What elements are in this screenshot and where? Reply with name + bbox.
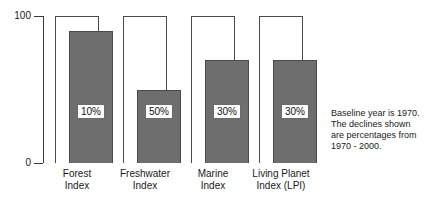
annotation-line-2: The declines shown — [331, 119, 434, 130]
y-axis-line — [43, 16, 44, 163]
bar-group-freshwater: 50% — [123, 16, 181, 163]
bar-group-living-planet: 30% — [259, 16, 317, 163]
current-bar: 50% — [137, 90, 181, 164]
bar-group-forest: 10% — [55, 16, 113, 163]
bar-group-marine: 30% — [191, 16, 249, 163]
y-axis-label-bottom: 0 — [0, 158, 31, 168]
category-label-living-planet: Living Planet Index (LPI) — [233, 168, 329, 192]
annotation-line-4: 1970 - 2000. — [331, 141, 434, 152]
data-label: 50% — [145, 104, 173, 119]
current-bar: 30% — [205, 60, 249, 163]
category-label-line2: Index (LPI) — [233, 180, 329, 192]
data-label: 30% — [281, 104, 309, 119]
category-label-line1: Forest — [63, 168, 91, 179]
category-label-line1: Marine — [198, 168, 229, 179]
y-axis-label-top: 100 — [0, 11, 31, 21]
plot-area: 10% 50% 30% 30% — [55, 16, 320, 163]
chart-annotation: Baseline year is 1970. The declines show… — [331, 108, 434, 152]
bar-chart: 100 0 10% 50% 30% 30% — [0, 0, 436, 214]
category-label-line1: Living Planet — [252, 168, 309, 179]
current-bar: 30% — [273, 60, 317, 163]
data-label: 10% — [77, 104, 105, 119]
data-label: 30% — [213, 104, 241, 119]
y-axis-tick-100 — [34, 16, 43, 17]
category-label-line1: Freshwater — [120, 168, 170, 179]
current-bar: 10% — [69, 31, 113, 163]
y-axis-tick-0 — [34, 163, 43, 164]
annotation-line-1: Baseline year is 1970. — [331, 108, 434, 119]
annotation-line-3: are percentages from — [331, 130, 434, 141]
